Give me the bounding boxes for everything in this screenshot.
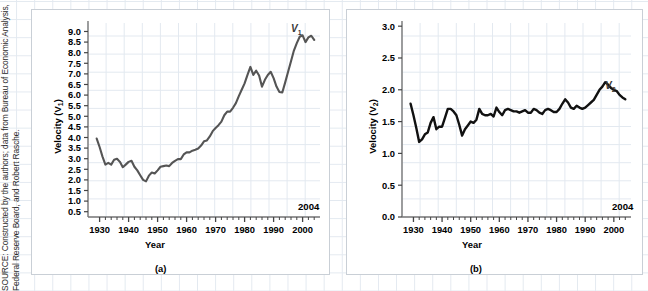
x-tick-label: 1930 bbox=[403, 225, 424, 235]
chart-b-series-label: V2 bbox=[605, 80, 616, 93]
y-tick-label: 1.5 bbox=[68, 186, 81, 196]
y-tick-label: 3.5 bbox=[68, 143, 81, 153]
y-tick-label: 3.0 bbox=[382, 22, 395, 32]
chart-b-svg: 0.00.51.01.52.02.53.01930194019501960197… bbox=[346, 9, 641, 273]
y-tick-label: 6.5 bbox=[68, 80, 81, 90]
series-label-subscript: 1 bbox=[298, 29, 302, 36]
x-tick-label: 1970 bbox=[518, 225, 539, 235]
chart-b-plot: 0.00.51.01.52.02.53.01930194019501960197… bbox=[346, 9, 641, 273]
y-tick-label: 1.5 bbox=[382, 117, 395, 127]
chart-a-y-axis-title: Velocity (V1) bbox=[52, 66, 65, 186]
y-tick-label: 8.0 bbox=[68, 48, 81, 58]
chart-a-x-axis-title: Year bbox=[145, 239, 165, 250]
y-tick-label: 1.0 bbox=[68, 196, 81, 206]
svg-b-gridlines bbox=[402, 23, 631, 217]
y-tick-label: 2.0 bbox=[68, 175, 81, 185]
x-tick-label: 1950 bbox=[147, 225, 168, 235]
x-tick-label: 2000 bbox=[292, 225, 313, 235]
x-tick-label: 1940 bbox=[432, 225, 453, 235]
y-tick-label: 2.0 bbox=[382, 85, 395, 95]
chart-a-svg: 0.51.01.52.02.53.03.54.04.55.05.56.06.57… bbox=[31, 9, 328, 273]
svg-a-gridlines bbox=[88, 23, 320, 217]
y-tick-label: 1.0 bbox=[382, 149, 395, 159]
chart-a-plot: 0.51.01.52.02.53.03.54.04.55.05.56.06.57… bbox=[31, 9, 328, 273]
x-tick-label: 1980 bbox=[546, 225, 567, 235]
y-tick-label: 8.5 bbox=[68, 37, 81, 47]
series-label-subscript: 2 bbox=[612, 86, 616, 93]
source-note: SOURCE: Constructed by the authors; data… bbox=[0, 0, 24, 291]
x-tick-label: 1990 bbox=[263, 225, 284, 235]
y-tick-label: 2.5 bbox=[68, 165, 81, 175]
x-tick-label: 1950 bbox=[460, 225, 481, 235]
y-tick-label: 7.5 bbox=[68, 59, 81, 69]
y-tick-label: 4.5 bbox=[68, 122, 81, 132]
y-tick-label: 5.0 bbox=[68, 112, 81, 122]
chart-b-x-axis-title: Year bbox=[462, 239, 482, 250]
y-axis-title-tail: ) bbox=[52, 99, 63, 102]
y-tick-label: 2.5 bbox=[382, 53, 395, 63]
y-tick-label: 4.0 bbox=[68, 133, 81, 143]
x-tick-label: 1990 bbox=[575, 225, 596, 235]
figure-root: SOURCE: Constructed by the authors; data… bbox=[0, 0, 648, 291]
y-axis-title-tail: ) bbox=[367, 99, 378, 102]
y-tick-label: 5.5 bbox=[68, 101, 81, 111]
x-tick-label: 1940 bbox=[118, 225, 139, 235]
data-series-line bbox=[411, 82, 626, 142]
chart-a-series-label: V1 bbox=[291, 23, 302, 36]
y-axis-title-subscript: 1 bbox=[57, 102, 64, 106]
y-tick-label: 0.0 bbox=[382, 212, 395, 222]
y-axis-title-text: Velocity (V bbox=[52, 106, 63, 153]
chart-a-caption: (a) bbox=[155, 263, 166, 274]
y-axis-title-text: Velocity (V bbox=[367, 106, 378, 153]
chart-b-y-axis-title: Velocity (V2) bbox=[367, 66, 380, 186]
y-axis-title-subscript: 2 bbox=[372, 102, 379, 106]
x-tick-label: 1930 bbox=[89, 225, 110, 235]
y-tick-label: 3.0 bbox=[68, 154, 81, 164]
series-label-letter: V bbox=[605, 80, 612, 91]
chart-a-end-year-label: 2004 bbox=[298, 201, 319, 212]
x-tick-label: 1960 bbox=[176, 225, 197, 235]
y-tick-label: 0.5 bbox=[68, 207, 81, 217]
chart-b-end-year-label: 2004 bbox=[612, 201, 633, 212]
x-tick-label: 1980 bbox=[234, 225, 255, 235]
y-tick-label: 9.0 bbox=[68, 27, 81, 37]
y-tick-label: 0.5 bbox=[382, 181, 395, 191]
x-tick-label: 1970 bbox=[205, 225, 226, 235]
series-label-letter: V bbox=[291, 23, 298, 34]
x-tick-label: 2000 bbox=[603, 225, 624, 235]
chart-b-caption: (b) bbox=[470, 263, 482, 274]
y-tick-label: 6.0 bbox=[68, 90, 81, 100]
y-tick-label: 7.0 bbox=[68, 69, 81, 79]
x-tick-label: 1960 bbox=[489, 225, 510, 235]
